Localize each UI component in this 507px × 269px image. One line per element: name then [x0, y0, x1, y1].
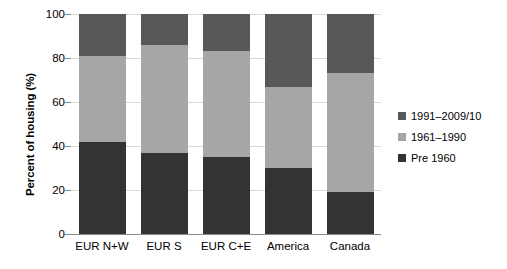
x-axis-tick-label: EUR S: [133, 240, 195, 252]
bar-segment[interactable]: [79, 14, 126, 56]
bar-stack[interactable]: [79, 14, 126, 234]
legend-swatch-icon: [398, 154, 406, 162]
legend-item[interactable]: Pre 1960: [398, 152, 481, 164]
legend-item-label: 1961–1990: [411, 131, 466, 143]
bar-segment[interactable]: [265, 168, 312, 234]
bar-segment[interactable]: [265, 87, 312, 168]
bar-stack[interactable]: [203, 14, 250, 234]
legend-item-label: 1991–2009/10: [411, 110, 481, 122]
stacked-bar-chart: Percent of housing (%) 020406080100 EUR …: [0, 0, 507, 269]
y-axis-tick-label: 80: [5, 52, 65, 64]
x-axis-tick-label: EUR N+W: [71, 240, 133, 252]
bar-segment[interactable]: [203, 51, 250, 157]
y-axis-tick-label: 60: [5, 96, 65, 108]
bar-segment[interactable]: [141, 45, 188, 153]
bar-segment[interactable]: [265, 14, 312, 87]
y-axis-tick-label: 20: [5, 184, 65, 196]
legend-swatch-icon: [398, 133, 406, 141]
chart-legend: 1991–2009/101961–1990Pre 1960: [398, 110, 481, 164]
legend-swatch-icon: [398, 112, 406, 120]
bar-segment[interactable]: [141, 153, 188, 234]
bar-segment[interactable]: [327, 73, 374, 192]
bar-segment[interactable]: [327, 192, 374, 234]
x-axis-tick-label: America: [257, 240, 319, 252]
legend-item[interactable]: 1961–1990: [398, 131, 481, 143]
bar-segment[interactable]: [79, 142, 126, 234]
bar-stack[interactable]: [265, 14, 312, 234]
plot-area: [71, 14, 381, 234]
x-axis-tick-label: Canada: [319, 240, 381, 252]
bar-stack[interactable]: [141, 14, 188, 234]
x-axis-tick-label: EUR C+E: [195, 240, 257, 252]
bar-segment[interactable]: [141, 14, 188, 45]
x-axis-line: [71, 234, 381, 235]
bar-stack[interactable]: [327, 14, 374, 234]
y-axis-tick-label: 40: [5, 140, 65, 152]
bar-segment[interactable]: [327, 14, 374, 73]
bar-segment[interactable]: [203, 157, 250, 234]
bar-segment[interactable]: [79, 56, 126, 142]
bar-segment[interactable]: [203, 14, 250, 51]
y-axis-tick-label: 100: [5, 8, 65, 20]
legend-item-label: Pre 1960: [411, 152, 456, 164]
y-axis-tick-label: 0: [5, 228, 65, 240]
legend-item[interactable]: 1991–2009/10: [398, 110, 481, 122]
